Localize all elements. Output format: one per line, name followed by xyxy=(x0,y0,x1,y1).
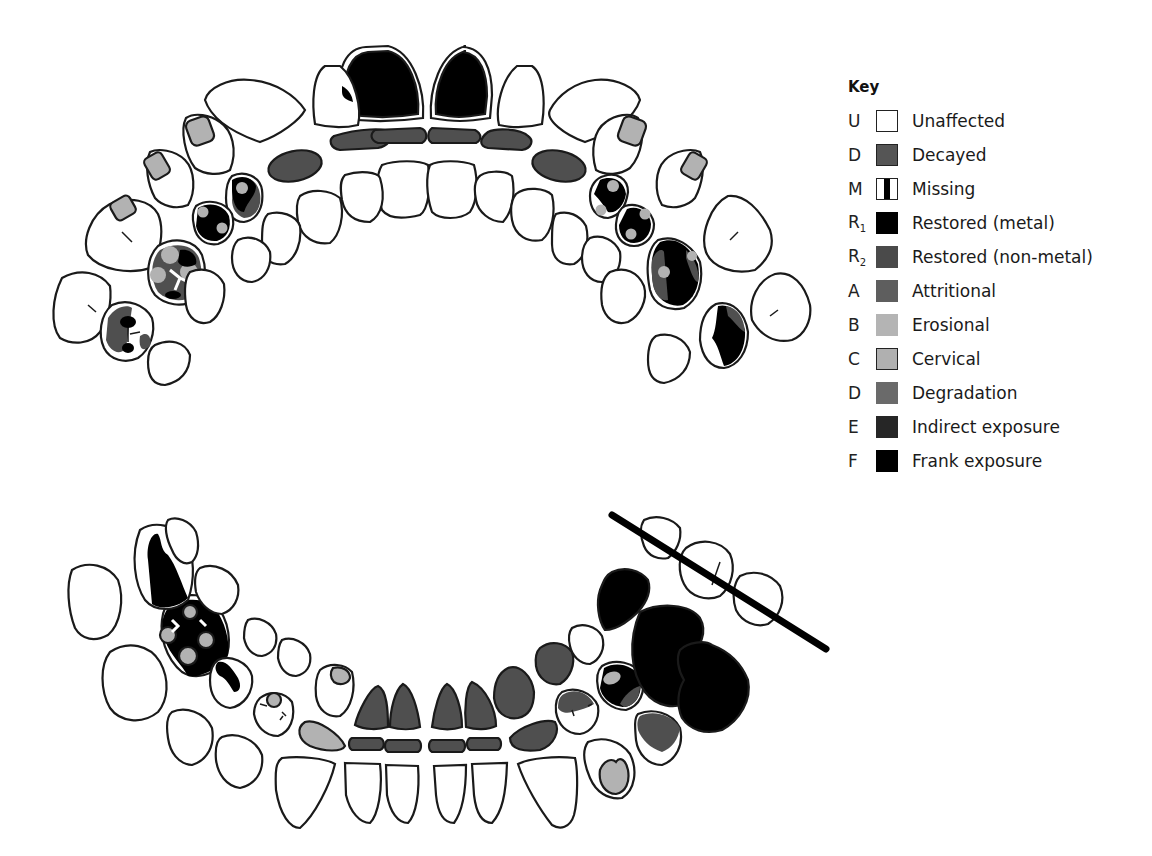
tooth-lower-canine-labial-right xyxy=(276,757,335,828)
tooth-upper-left-lingual-molar-2 xyxy=(648,335,690,383)
tooth-upper-palatal-3 xyxy=(341,172,383,222)
key-item-swatch-icon xyxy=(876,178,898,200)
key-item-swatch-icon xyxy=(876,110,898,132)
tooth-lower-right-lingual-3 xyxy=(244,619,276,656)
key-item-label: Cervical xyxy=(912,349,981,369)
tooth-lower-right-outer-molar-2 xyxy=(103,645,167,720)
key-item-swatch-icon xyxy=(876,348,898,370)
tooth-lower-labial-4 xyxy=(472,763,507,823)
key-rows: U Unaffected D Decayed M Missing R1 Rest… xyxy=(848,104,1148,478)
key-title: Key xyxy=(848,78,1148,96)
tooth-lower-left-premolar-3 xyxy=(556,690,599,734)
key-item-swatch-icon xyxy=(876,382,898,404)
tooth-upper-canine-edge-right xyxy=(265,146,324,187)
key-item-code: M xyxy=(848,179,870,199)
key-item-code: U xyxy=(848,111,870,131)
lower-arch xyxy=(68,515,826,828)
tooth-lower-right-premolar-1 xyxy=(316,665,354,716)
tooth-lower-incisal-3 xyxy=(429,740,465,752)
key-item: D Degradation xyxy=(848,376,1148,410)
tooth-upper-palatal-2 xyxy=(427,161,476,218)
key-item-code: B xyxy=(848,315,870,335)
key-item-label: Degradation xyxy=(912,383,1018,403)
key-item: R2 Restored (non-metal) xyxy=(848,240,1148,274)
tooth-upper-incisal-edge-4 xyxy=(481,129,531,150)
tooth-lower-canine-left xyxy=(494,667,534,718)
tooth-upper-central-incisor-left xyxy=(431,46,492,121)
key-item-label: Decayed xyxy=(912,145,987,165)
key-legend: Key U Unaffected D Decayed M Missing R1 … xyxy=(848,78,1148,478)
upper-arch xyxy=(43,46,810,385)
tooth-lower-left-molar-5 xyxy=(635,711,681,765)
key-item: C Cervical xyxy=(848,342,1148,376)
tooth-upper-canine-edge-left xyxy=(529,146,588,187)
tooth-lower-incisal-2 xyxy=(385,740,421,752)
tooth-lower-labial-1 xyxy=(345,763,381,823)
tooth-lower-incisor-3 xyxy=(432,684,462,729)
key-item-swatch-icon xyxy=(876,450,898,472)
key-item-label: Indirect exposure xyxy=(912,417,1060,437)
tooth-lower-labial-3 xyxy=(434,765,466,823)
key-item-code: D xyxy=(848,145,870,165)
tooth-upper-left-premolar-lingual-2 xyxy=(616,205,654,246)
key-item-code: F xyxy=(848,451,870,471)
tooth-lower-right-outer-premolar-2 xyxy=(216,735,263,788)
key-item: R1 Restored (metal) xyxy=(848,206,1148,240)
tooth-upper-left-lingual-molar xyxy=(601,270,645,323)
key-item-swatch-icon xyxy=(876,280,898,302)
key-item: F Frank exposure xyxy=(848,444,1148,478)
key-item-code: R2 xyxy=(848,246,870,268)
tooth-lower-right-outer-premolar-1 xyxy=(167,710,213,765)
tooth-upper-palatal-9 xyxy=(232,238,270,282)
tooth-lower-right-outer-molar-1 xyxy=(68,565,121,639)
tooth-upper-left-molar-outer xyxy=(751,273,810,341)
tooth-upper-left-premolar-2 xyxy=(657,150,709,207)
tooth-lower-incisal-4 xyxy=(467,738,501,750)
tooth-lower-incisor-4 xyxy=(465,682,496,729)
tooth-lower-left-premolar-1 xyxy=(536,643,574,684)
tooth-lower-left-molar-6 xyxy=(584,739,634,798)
key-item-code: C xyxy=(848,349,870,369)
tooth-upper-left-premolar-3 xyxy=(704,196,772,272)
key-item-swatch-icon xyxy=(876,314,898,336)
tooth-upper-right-premolar-2 xyxy=(142,150,193,207)
tooth-upper-left-molar-1 xyxy=(648,238,702,309)
key-item-label: Restored (non-metal) xyxy=(912,247,1093,267)
key-item-label: Unaffected xyxy=(912,111,1005,131)
tooth-upper-palatal-6 xyxy=(511,189,553,241)
tooth-upper-right-lingual-molar xyxy=(185,270,224,323)
tooth-upper-palatal-4 xyxy=(475,172,514,222)
tooth-lower-canine-labial-left xyxy=(518,757,577,827)
tooth-lower-right-premolar-2 xyxy=(254,693,293,736)
tooth-lower-left-molar-4 xyxy=(678,642,749,732)
tooth-lower-incisor-1 xyxy=(355,686,388,729)
tooth-lower-labial-2 xyxy=(386,765,419,823)
key-item: B Erosional xyxy=(848,308,1148,342)
tooth-upper-incisal-edge-2 xyxy=(372,128,427,143)
tooth-upper-left-molar-2 xyxy=(700,303,748,368)
key-item-label: Restored (metal) xyxy=(912,213,1055,233)
key-item: E Indirect exposure xyxy=(848,410,1148,444)
key-item-code: A xyxy=(848,281,870,301)
key-item-code: D xyxy=(848,383,870,403)
key-item: U Unaffected xyxy=(848,104,1148,138)
tooth-lower-canine-edge-left xyxy=(510,721,557,751)
key-item-code: E xyxy=(848,417,870,437)
tooth-upper-right-lingual-molar-2 xyxy=(148,342,190,385)
key-item-label: Attritional xyxy=(912,281,996,301)
tooth-upper-palatal-5 xyxy=(297,191,342,243)
key-item-code: R1 xyxy=(848,212,870,234)
tooth-upper-palatal-1 xyxy=(378,161,430,217)
tooth-lower-incisor-2 xyxy=(390,684,420,729)
key-item: M Missing xyxy=(848,172,1148,206)
tooth-upper-incisal-edge-3 xyxy=(428,128,480,143)
key-item: A Attritional xyxy=(848,274,1148,308)
key-item-label: Frank exposure xyxy=(912,451,1042,471)
tooth-upper-lateral-incisor-left xyxy=(498,66,544,127)
tooth-upper-right-premolar-lingual-2 xyxy=(193,202,234,244)
key-item-swatch-icon xyxy=(876,144,898,166)
key-item-swatch-icon xyxy=(876,416,898,438)
tooth-upper-right-molar-2 xyxy=(101,302,154,361)
key-item-label: Erosional xyxy=(912,315,990,335)
key-item: D Decayed xyxy=(848,138,1148,172)
